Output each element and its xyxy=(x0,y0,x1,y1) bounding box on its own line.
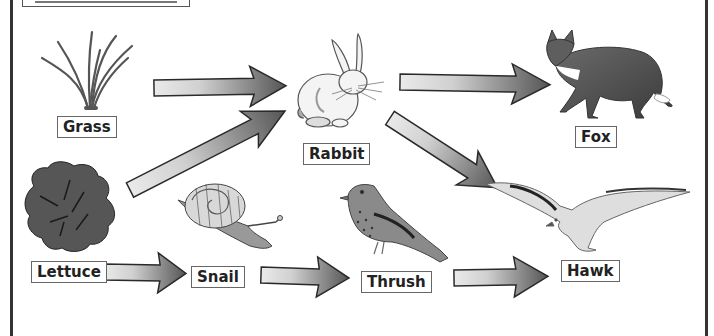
arrow-thrush-to-hawk xyxy=(454,256,549,298)
label-snail: Snail xyxy=(191,266,245,288)
label-hawk: Hawk xyxy=(561,260,620,282)
fox-illustration xyxy=(547,30,672,118)
snail-illustration xyxy=(178,184,283,248)
arrow-snail-to-thrush xyxy=(260,255,349,298)
lettuce-illustration xyxy=(25,162,115,252)
arrow-rabbit-to-hawk xyxy=(379,101,508,204)
label-thrush: Thrush xyxy=(361,271,432,293)
label-fox: Fox xyxy=(575,126,617,148)
label-lettuce: Lettuce xyxy=(31,261,107,283)
grass-illustration xyxy=(42,32,132,108)
rabbit-illustration xyxy=(298,34,384,127)
arrow-rabbit-to-fox xyxy=(400,62,551,105)
thrush-illustration xyxy=(340,184,448,262)
label-rabbit: Rabbit xyxy=(303,143,370,165)
arrow-grass-to-rabbit xyxy=(154,66,287,108)
label-grass: Grass xyxy=(57,116,117,138)
hawk-illustration xyxy=(486,183,690,251)
arrow-lettuce-to-snail xyxy=(104,252,187,293)
